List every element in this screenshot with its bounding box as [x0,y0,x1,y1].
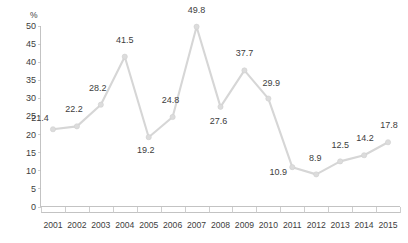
x-axis-tick-label: 2004 [115,220,134,230]
x-axis-tick-label: 2001 [43,220,62,230]
series-marker [385,140,390,145]
series-marker [170,114,175,119]
data-point-label: 49.8 [188,5,206,15]
data-point-label: 41.5 [116,35,134,45]
y-axis-tick-label: 15 [26,148,36,158]
data-point-label: 37.7 [236,48,254,58]
x-axis-tick-label: 2006 [163,220,182,230]
x-axis-tick-label: 2015 [378,220,397,230]
data-point-label: 8.9 [309,153,322,163]
x-axis-tick-label: 2008 [211,220,230,230]
series-marker [266,96,271,101]
y-axis-tick-label: 20 [26,130,36,140]
line-chart: % 05101520253035404550 21.422.228.241.51… [0,0,408,243]
series-marker [50,127,55,132]
series-marker [338,159,343,164]
series-marker [242,68,247,73]
series-marker [218,104,223,109]
data-point-label: 14.2 [356,133,374,143]
x-axis-tick-labels: 2001200220032004200520062007200820092010… [43,220,397,230]
x-axis-tick-label: 2002 [67,220,86,230]
x-axis-tick-label: 2005 [139,220,158,230]
y-axis-tick-label: 5 [31,184,36,194]
chart-canvas: % 05101520253035404550 21.422.228.241.51… [0,0,408,243]
y-axis-tick-label: 45 [26,39,36,49]
data-point-label: 28.2 [89,83,107,93]
series-marker [74,124,79,129]
series-marker [194,24,199,29]
x-axis-tick-label: 2011 [283,220,302,230]
data-point-label: 19.2 [137,145,155,155]
data-point-label: 29.9 [263,78,281,88]
data-point-label: 22.2 [65,104,83,114]
y-axis-tick-label: 10 [26,166,36,176]
series-marker [290,165,295,170]
data-point-label: 10.9 [270,167,288,177]
x-axis-tick-label: 2009 [235,220,254,230]
data-point-label: 24.8 [162,95,180,105]
y-axis-unit-label: % [30,10,38,20]
data-point-label: 12.5 [331,140,349,150]
data-point-label: 21.4 [31,113,49,123]
series-marker [146,135,151,140]
x-axis-tick-label: 2010 [259,220,278,230]
y-axis-tick-label: 0 [31,202,36,212]
y-axis-tick-label: 30 [26,93,36,103]
series-marker [98,102,103,107]
series-marker [122,54,127,59]
series-marker [314,172,319,177]
x-axis-tick-label: 2003 [91,220,110,230]
y-axis-tick-label: 35 [26,75,36,85]
y-axis-tick-label: 40 [26,57,36,67]
data-point-label: 27.6 [210,116,228,126]
data-point-label: 17.8 [380,120,398,130]
x-axis-tick-label: 2014 [355,220,374,230]
y-axis-tick-label: 50 [26,21,36,31]
x-axis-tick-label: 2012 [307,220,326,230]
x-axis-tick-label: 2007 [187,220,206,230]
x-axis-tick-label: 2013 [331,220,350,230]
series-marker [362,153,367,158]
